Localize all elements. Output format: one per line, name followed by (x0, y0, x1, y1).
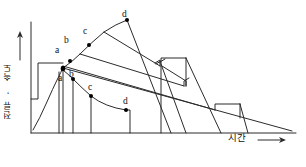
marker-lower-c (89, 94, 93, 98)
steep-drop-b (186, 58, 221, 133)
point-label-lower-c: c (88, 83, 92, 93)
point-label-lower-a: a (58, 74, 62, 84)
steep-drop-d (127, 20, 171, 133)
point-label-lower-d: d (123, 97, 128, 107)
lower-drop-d (126, 110, 130, 133)
point-label-upper-a: a (55, 46, 59, 56)
chart-canvas (0, 0, 306, 167)
chart-figure: a b c d a b c d 전류, 속도 시간 (0, 0, 306, 167)
y-axis-label: 전류, 속도 (4, 63, 18, 119)
upper-envelope-arc (63, 20, 127, 68)
data-point-markers (61, 18, 129, 112)
plateau-2-top (215, 104, 240, 110)
x-axis-arrow-icon (258, 137, 286, 143)
point-label-upper-c: c (83, 27, 87, 37)
marker-lower-d (124, 108, 128, 112)
steep-drop-c (161, 64, 186, 133)
marker-upper-b (68, 59, 72, 63)
marker-lower-a (61, 67, 66, 72)
marker-upper-c (87, 43, 91, 47)
point-label-lower-b: b (69, 70, 74, 80)
upper-decay-line-d (104, 32, 160, 66)
x-axis-label: 시간 (228, 133, 246, 143)
y-axis-arrow-icon (17, 31, 23, 60)
point-label-upper-b: b (64, 36, 69, 46)
point-label-upper-d: d (122, 10, 127, 20)
